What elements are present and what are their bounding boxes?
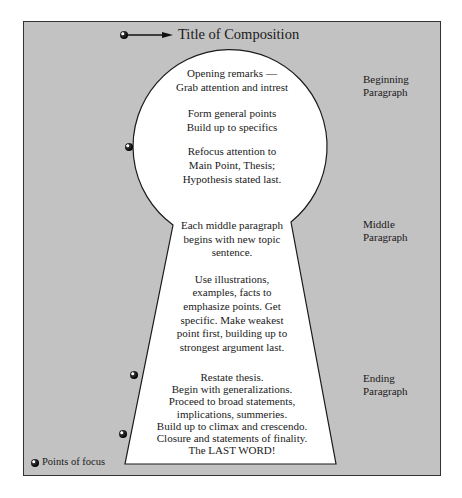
composition-title: Title of Composition: [178, 26, 299, 43]
text-line: point first, building up to: [162, 327, 302, 341]
text-line: Begin with generalizations.: [142, 383, 322, 395]
text-line: emphasize points. Get: [162, 300, 302, 314]
label-line: Beginning: [363, 73, 409, 86]
focus-point-icon: [125, 143, 133, 151]
text-line: Restate thesis.: [142, 371, 322, 383]
label-line: Ending: [363, 372, 408, 385]
text-line: Proceed to broad statements,: [142, 395, 322, 407]
text-line: Hypothesis stated last.: [162, 173, 302, 187]
focus-point-icon: [130, 371, 138, 379]
text-line: Refocus attention to: [162, 145, 302, 159]
label-beginning-paragraph: Beginning Paragraph: [363, 73, 409, 99]
label-ending-paragraph: Ending Paragraph: [363, 372, 408, 398]
beginning-text: Opening remarks — Grab attention and int…: [162, 67, 302, 186]
text-line: strongest argument last.: [162, 341, 302, 355]
text-line: Opening remarks —: [162, 67, 302, 81]
text-line: implications, summeries.: [142, 408, 322, 420]
ending-text: Restate thesis. Begin with generalizatio…: [142, 371, 322, 456]
text-line: begins with new topic: [162, 233, 302, 247]
focus-point-icon: [119, 430, 127, 438]
legend-label: Points of focus: [42, 456, 105, 467]
title-arrow-head: [162, 32, 173, 38]
text-line: The LAST WORD!: [142, 444, 322, 456]
text-line: Use illustrations,: [162, 273, 302, 287]
legend-focus-point-icon: [31, 459, 39, 467]
text-line: sentence.: [162, 246, 302, 260]
label-middle-paragraph: Middle Paragraph: [363, 218, 408, 244]
text-line: specific. Make weakest: [162, 314, 302, 328]
label-line: Paragraph: [363, 86, 409, 99]
label-line: Paragraph: [363, 231, 408, 244]
text-line: Each middle paragraph: [162, 219, 302, 233]
text-line: Build up to climax and crescendo.: [142, 420, 322, 432]
label-line: Middle: [363, 218, 408, 231]
text-line: examples, facts to: [162, 286, 302, 300]
text-line: Main Point, Thesis;: [162, 159, 302, 173]
text-line: Closure and statements of finality.: [142, 432, 322, 444]
label-line: Paragraph: [363, 385, 408, 398]
text-line: Grab attention and intrest: [162, 81, 302, 95]
text-line: Form general points: [162, 107, 302, 121]
text-line: Build up to specifics: [162, 121, 302, 135]
focus-point-icon: [120, 31, 128, 39]
middle-text: Each middle paragraph begins with new to…: [162, 219, 302, 354]
